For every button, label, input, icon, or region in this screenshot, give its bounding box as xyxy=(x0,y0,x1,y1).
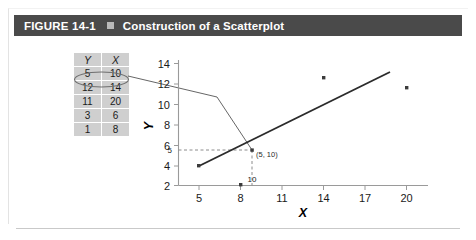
y-tick-label: 2 xyxy=(164,180,170,192)
data-point xyxy=(197,164,200,167)
x-tick-label: 20 xyxy=(400,192,412,204)
data-point-highlighted xyxy=(250,148,253,151)
x-tick-label: 17 xyxy=(359,192,371,204)
data-point xyxy=(239,183,242,186)
y-tick-label: 14 xyxy=(158,58,170,70)
x-tick-label: 5 xyxy=(196,192,202,204)
x-axis-ticks: 5 8 11 14 17 20 xyxy=(196,186,413,205)
highlighted-row-ellipse xyxy=(75,72,129,87)
y-tick-label: 4 xyxy=(164,160,170,172)
guide-y-label: 5 xyxy=(168,146,173,155)
figure-container: FIGURE 14-1 Construction of a Scatterplo… xyxy=(0,0,476,240)
y-tick-label: 8 xyxy=(164,119,170,131)
x-axis-title: X xyxy=(298,206,308,220)
x-tick-label: 11 xyxy=(276,192,287,204)
data-point xyxy=(322,76,325,79)
y-tick-label: 10 xyxy=(158,99,170,111)
y-tick-label: 12 xyxy=(158,78,170,90)
y-axis-title: Y xyxy=(142,120,156,130)
bottom-divider xyxy=(16,228,460,229)
trend-line xyxy=(199,72,390,166)
x-tick-label: 8 xyxy=(237,192,243,204)
point-callout-label: (5, 10) xyxy=(256,150,278,159)
x-tick-label: 14 xyxy=(317,192,329,204)
data-point xyxy=(405,86,408,89)
leader-line xyxy=(128,76,252,150)
scatterplot: 14 12 10 8 6 4 2 5 8 11 14 17 xyxy=(0,0,476,240)
y-axis-ticks: 14 12 10 8 6 4 2 xyxy=(158,58,179,192)
guide-x-label: 10 xyxy=(248,175,257,184)
